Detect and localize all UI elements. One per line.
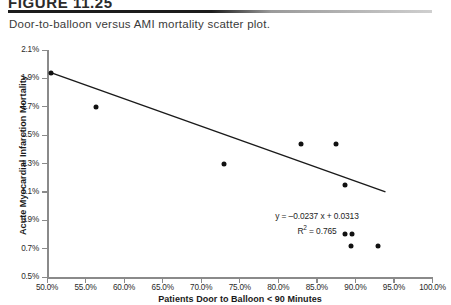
scatter-point (348, 243, 353, 248)
regression-trendline (51, 73, 386, 192)
scatter-point (298, 141, 303, 146)
r-squared-value: = 0.765 (307, 226, 337, 236)
r-squared-text: R2 = 0.765 (249, 222, 385, 237)
scatter-point (375, 243, 380, 248)
scatter-point (334, 141, 339, 146)
scatter-point (94, 104, 99, 109)
regression-equation-text: y = –0.0237 x + 0.0313 (275, 211, 358, 221)
scatter-point (222, 161, 227, 166)
scatter-point (48, 70, 53, 75)
regression-annotation: y = –0.0237 x + 0.0313 R2 = 0.765 (249, 211, 385, 237)
scatter-point (343, 182, 348, 187)
